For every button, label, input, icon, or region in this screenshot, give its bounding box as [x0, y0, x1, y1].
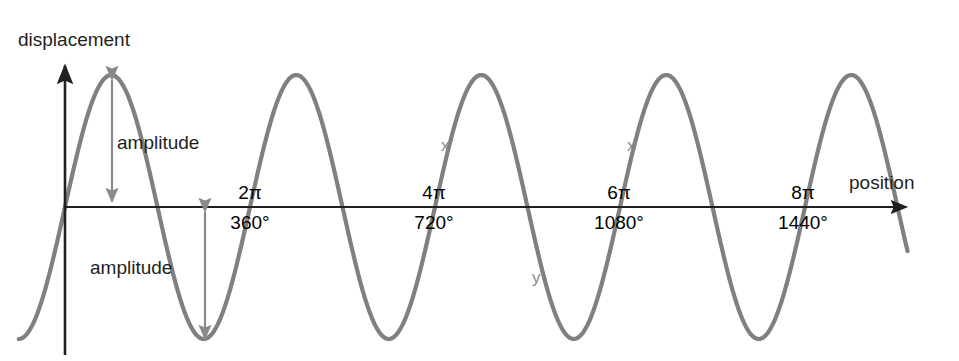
curve-point-marker-y-1: y	[532, 269, 541, 286]
tick-label-degrees-1440: 1440°	[743, 212, 863, 234]
tick-label-radians-8pi: 8π	[743, 182, 863, 204]
tick-group-1440: 1440°	[743, 212, 863, 234]
amplitude-label-top: amplitude	[117, 133, 199, 152]
tick-label-degrees-720: 720°	[374, 212, 494, 234]
y-axis-label: displacement	[18, 30, 130, 49]
tick-group-720: 720°	[374, 212, 494, 234]
tick-group-360: 360°	[190, 212, 310, 234]
tick-label-degrees-360: 360°	[190, 212, 310, 234]
curve-point-marker-x-2: x	[627, 137, 636, 154]
tick-label-degrees-1080: 1080°	[559, 212, 679, 234]
amplitude-label-bottom: amplitude	[90, 258, 172, 277]
tick-group-4pi: 4π	[374, 182, 494, 204]
wave-diagram: displacement position amplitude amplitud…	[0, 0, 959, 361]
tick-label-radians-6pi: 6π	[559, 182, 679, 204]
curve-point-marker-x-1: x	[441, 137, 450, 154]
tick-group-6pi: 6π	[559, 182, 679, 204]
tick-label-radians-2pi: 2π	[190, 182, 310, 204]
wave-diagram-svg	[0, 0, 959, 361]
tick-group-8pi: 8π	[743, 182, 863, 204]
tick-label-radians-4pi: 4π	[374, 182, 494, 204]
tick-group-1080: 1080°	[559, 212, 679, 234]
tick-group-2pi: 2π	[190, 182, 310, 204]
